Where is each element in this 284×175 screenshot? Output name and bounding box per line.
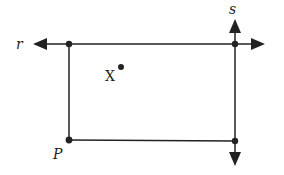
geometry-diagram: r s P X [0, 0, 284, 175]
point-p [66, 137, 73, 144]
label-r: r [16, 36, 24, 52]
point-top-left [66, 41, 72, 47]
label-x: X [105, 68, 115, 84]
point-x [118, 64, 124, 70]
arrow-down-icon [229, 152, 241, 166]
point-bottom-right [232, 138, 238, 144]
arrow-up-icon [229, 19, 241, 33]
bottom-segment [69, 140, 235, 141]
label-s: s [229, 1, 236, 17]
arrow-right-icon [251, 38, 265, 50]
point-top-right [232, 41, 238, 47]
arrow-left-icon [33, 38, 47, 50]
label-p: P [52, 146, 63, 162]
